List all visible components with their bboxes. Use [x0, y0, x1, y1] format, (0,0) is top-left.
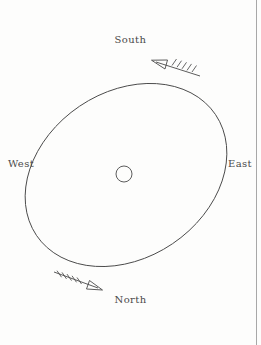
direction-label-south: South	[0, 35, 261, 45]
rotation-arrow-lower-left	[54, 271, 103, 290]
arrow-barbs	[172, 59, 197, 72]
compass-ellipse-diagram: South North West East	[0, 0, 261, 345]
center-circle	[116, 166, 132, 182]
direction-label-north: North	[0, 295, 261, 305]
tilted-ellipse	[0, 46, 261, 304]
direction-label-west: West	[8, 159, 34, 169]
arrow-shaft	[156, 62, 200, 76]
rotation-arrow-upper-right	[152, 59, 201, 76]
arrow-shaft	[54, 272, 98, 288]
arrow-head	[87, 281, 103, 291]
arrow-barbs	[57, 271, 82, 284]
direction-label-east: East	[228, 159, 252, 169]
